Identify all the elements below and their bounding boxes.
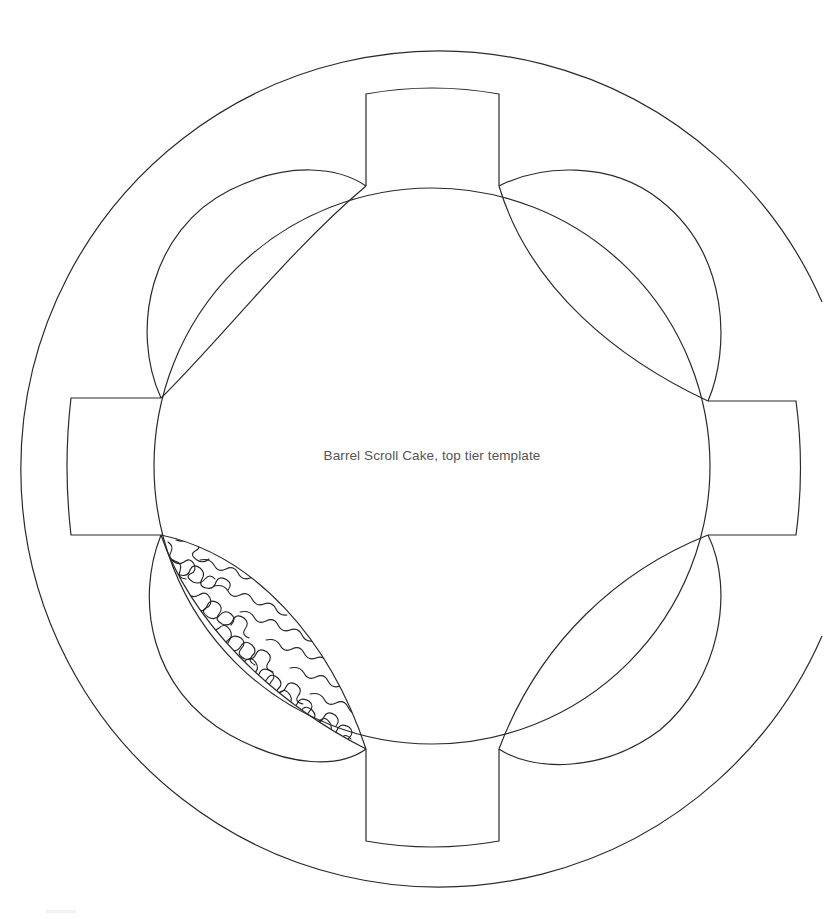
tab-top xyxy=(366,88,499,186)
tab-bottom xyxy=(366,749,499,847)
petal-lower-left xyxy=(149,535,366,762)
petal-upper-right-inner xyxy=(499,186,708,401)
inner-circle xyxy=(154,188,710,744)
petal-upper-right-outer xyxy=(499,170,721,401)
tab-left xyxy=(67,398,161,535)
petal-upper-right xyxy=(499,170,721,401)
template-title-label: Barrel Scroll Cake, top tier template xyxy=(232,448,632,463)
petal-lower-right-inner xyxy=(499,535,708,749)
tab-right xyxy=(708,401,801,535)
outer-ring-arc xyxy=(21,51,822,887)
petal-upper-left-outer xyxy=(147,170,366,398)
petal-lower-right-outer xyxy=(499,535,721,765)
scribble-pattern xyxy=(168,537,358,747)
petal-upper-left xyxy=(147,170,366,398)
petal-lower-left-outer xyxy=(149,535,366,762)
faint-mark xyxy=(46,910,76,913)
petal-lower-right xyxy=(499,535,721,765)
